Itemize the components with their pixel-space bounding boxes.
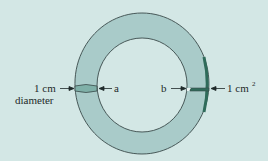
- right-size-label: 1 cm: [227, 82, 249, 94]
- point-b-label: b: [161, 82, 167, 94]
- left-size-sublabel: diameter: [15, 94, 54, 106]
- arrow-a: [99, 87, 112, 91]
- arrow-right-size: [211, 87, 225, 91]
- ring-diagram: 1 cm diameter a b 1 cm 2: [0, 0, 268, 161]
- cross-section-b: [190, 88, 209, 91]
- arrow-left-size: [60, 87, 74, 91]
- arrow-b: [171, 87, 186, 91]
- right-size-superscript: 2: [252, 80, 256, 88]
- point-a-label: a: [114, 82, 119, 94]
- cross-section-a: [75, 85, 97, 93]
- left-size-label: 1 cm: [34, 82, 56, 94]
- ring: [75, 13, 209, 154]
